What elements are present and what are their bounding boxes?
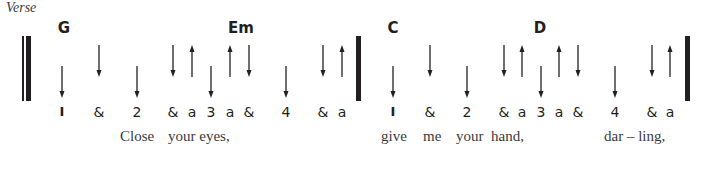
- beat-count: 2: [133, 104, 142, 120]
- beat-count: &: [94, 104, 105, 120]
- lyric-word: me: [423, 128, 441, 145]
- beat-count: &: [425, 104, 436, 120]
- up-strum-arrow-icon: [190, 45, 195, 77]
- down-strum-arrow-icon: [650, 45, 655, 77]
- down-strum-arrow-icon: [465, 66, 470, 98]
- down-strum-arrow-icon: [502, 45, 507, 77]
- beat-count: &: [499, 104, 510, 120]
- beat-count: I: [391, 104, 396, 119]
- lyric-word: Close: [120, 128, 154, 145]
- beat-count: 4: [282, 104, 291, 120]
- up-strum-arrow-icon: [520, 45, 525, 77]
- down-strum-arrow-icon: [247, 45, 252, 77]
- lyric-word: give: [381, 128, 407, 145]
- down-strum-arrow-icon: [135, 66, 140, 98]
- beat-count: &: [318, 104, 329, 120]
- chord-symbol: C: [387, 19, 398, 37]
- chord-symbol: G: [58, 19, 70, 37]
- down-strum-arrow-icon: [321, 45, 326, 77]
- chord-symbol: Em: [228, 19, 254, 37]
- lyric-word: dar – ling,: [604, 128, 665, 145]
- beat-count: &: [168, 104, 179, 120]
- up-strum-arrow-icon: [668, 45, 673, 77]
- beat-count: a: [666, 104, 675, 120]
- chord-symbol: D: [534, 19, 546, 37]
- down-strum-arrow-icon: [576, 45, 581, 77]
- down-strum-arrow-icon: [171, 45, 176, 77]
- down-strum-arrow-icon: [209, 66, 214, 98]
- beat-count: a: [338, 104, 347, 120]
- beat-count: &: [647, 104, 658, 120]
- down-strum-arrow-icon: [539, 66, 544, 98]
- beat-count: a: [188, 104, 197, 120]
- strum-arrows: [0, 0, 713, 175]
- up-strum-arrow-icon: [557, 45, 562, 77]
- beat-count: a: [555, 104, 564, 120]
- up-strum-arrow-icon: [340, 45, 345, 77]
- beat-count: I: [60, 104, 65, 119]
- down-strum-arrow-icon: [97, 45, 102, 77]
- beat-count: 4: [611, 104, 620, 120]
- up-strum-arrow-icon: [228, 45, 233, 77]
- down-strum-arrow-icon: [60, 66, 65, 98]
- lyric-word: your: [456, 128, 484, 145]
- down-strum-arrow-icon: [613, 66, 618, 98]
- beat-count: a: [518, 104, 527, 120]
- beat-count: 2: [463, 104, 472, 120]
- beat-count: &: [244, 104, 255, 120]
- beat-count: 3: [207, 104, 216, 120]
- lyric-word: your eyes,: [168, 128, 230, 145]
- down-strum-arrow-icon: [391, 66, 396, 98]
- lyric-word: hand,: [491, 128, 524, 145]
- beat-count: 3: [537, 104, 546, 120]
- down-strum-arrow-icon: [428, 45, 433, 77]
- beat-count: &: [573, 104, 584, 120]
- beat-count: a: [226, 104, 235, 120]
- down-strum-arrow-icon: [284, 66, 289, 98]
